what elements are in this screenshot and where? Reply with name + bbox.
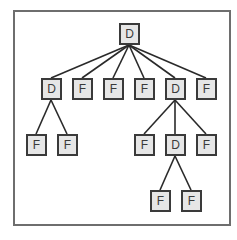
file-node: F [103, 78, 124, 100]
file-node: F [150, 190, 171, 212]
file-node: F [72, 78, 93, 100]
edge-n1-n8 [51, 100, 67, 134]
edge-n10-n13 [175, 156, 191, 190]
directory-node: D [165, 134, 186, 156]
edge-n1-n7 [36, 100, 51, 134]
file-node: F [181, 190, 202, 212]
edge-n5-n11 [175, 100, 206, 134]
directory-node: D [41, 78, 62, 100]
file-node: F [26, 134, 47, 156]
file-node: F [134, 134, 155, 156]
directory-node: D [165, 78, 186, 100]
file-node: F [57, 134, 78, 156]
directory-node: D [119, 23, 140, 45]
edge-n10-n12 [160, 156, 175, 190]
file-node: F [196, 134, 217, 156]
file-node: F [134, 78, 155, 100]
edge-n5-n9 [144, 100, 175, 134]
file-node: F [196, 78, 217, 100]
